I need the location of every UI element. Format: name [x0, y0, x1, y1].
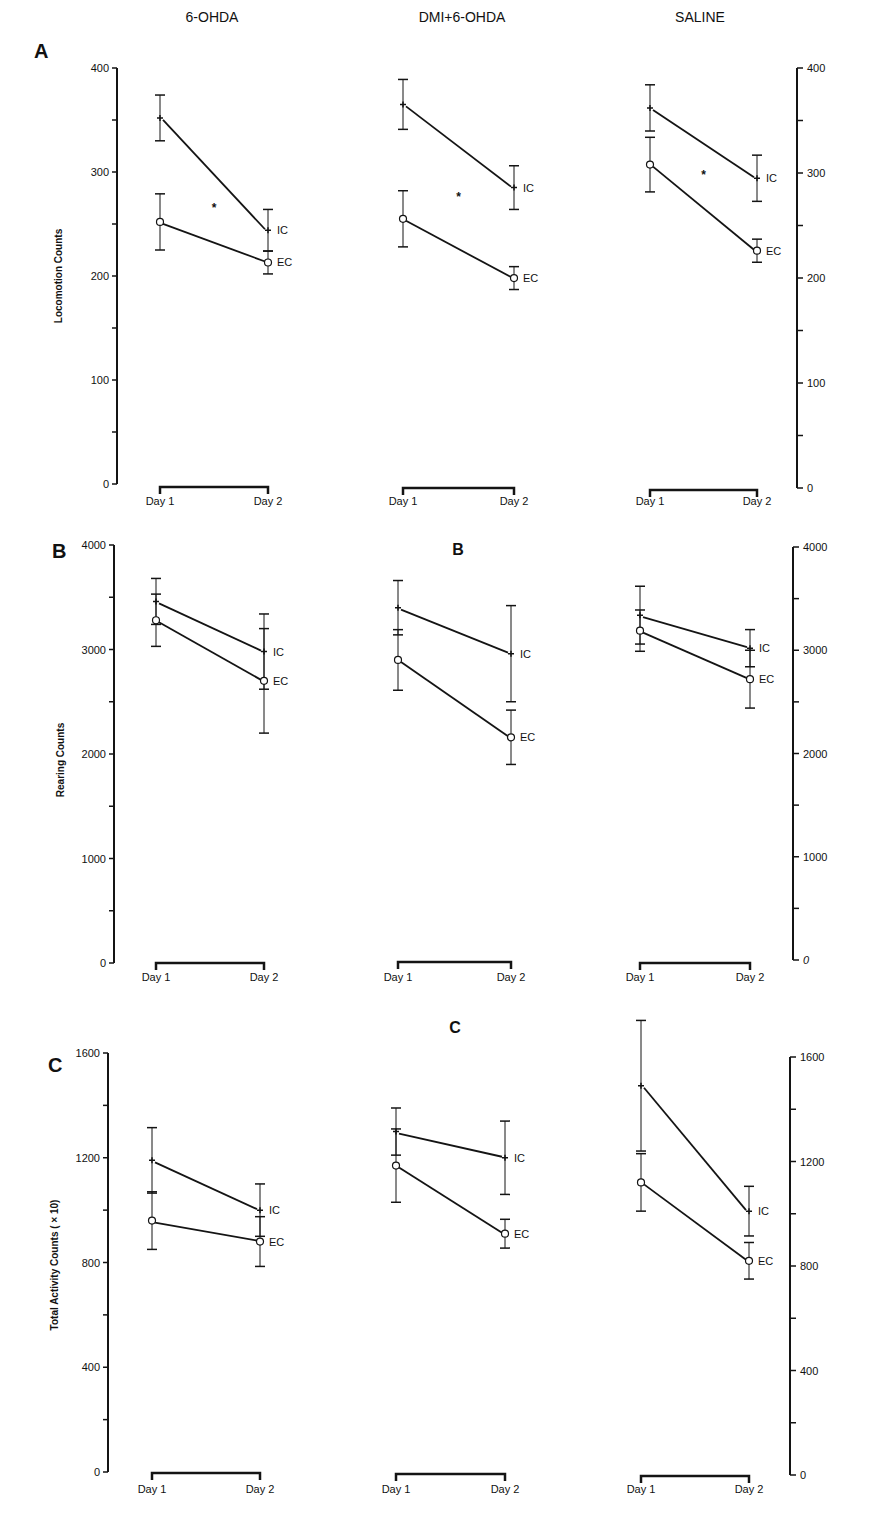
group-1: Day 1Day 2ICEC — [384, 581, 536, 983]
y-tick-label: 0 — [100, 957, 106, 969]
y-tick-label: 800 — [82, 1257, 100, 1269]
ec-marker — [747, 676, 754, 683]
ic-label: IC — [273, 646, 284, 658]
group-1: Day 1Day 2ICEC* — [389, 79, 539, 507]
ec-marker — [647, 161, 654, 168]
x-tick-label: Day 1 — [627, 1483, 656, 1495]
figure-canvas: 6-OHDADMI+6-OHDASALINEALocomotion Counts… — [0, 0, 871, 1523]
y-tick-label: 100 — [91, 374, 109, 386]
y-tick-label: 0 — [94, 1466, 100, 1478]
ec-label: EC — [758, 1255, 773, 1267]
panel-b: BBRearing Counts010002000300040000100020… — [52, 539, 827, 983]
y-axis-label: Locomotion Counts — [53, 228, 64, 323]
y-tick-label: 200 — [91, 270, 109, 282]
ec-line — [644, 1184, 746, 1259]
panel-letter: B — [52, 540, 66, 562]
ic-marker — [638, 1083, 644, 1089]
ec-marker — [502, 1230, 509, 1237]
panel-mid-letter: C — [449, 1019, 461, 1036]
ic-line — [653, 110, 754, 177]
x-tick-label: Day 1 — [382, 1483, 411, 1495]
ec-marker — [149, 1217, 156, 1224]
group-0: Day 1Day 2ICEC — [138, 1128, 285, 1495]
panel-mid-letter: B — [452, 541, 464, 558]
panel-a: ALocomotion Counts0100200300400010020030… — [34, 40, 825, 507]
ic-marker — [157, 115, 163, 121]
panel-letter: C — [48, 1054, 62, 1076]
y-tick-label-right: 100 — [807, 377, 825, 389]
ec-marker — [257, 1238, 264, 1245]
group-2: Day 1Day 2ICEC* — [636, 85, 782, 507]
column-title-0: 6-OHDA — [186, 9, 240, 25]
ec-line — [406, 221, 511, 277]
group-0: Day 1Day 2ICEC — [142, 578, 289, 983]
ec-line — [163, 224, 265, 262]
x-tick-label: Day 1 — [636, 495, 665, 507]
ic-marker — [647, 105, 653, 111]
y-tick-label-right: 1200 — [800, 1156, 824, 1168]
ec-line — [401, 662, 508, 736]
panel-c: CCTotal Activity Counts ( × 10)040080012… — [48, 1019, 824, 1495]
ic-label: IC — [514, 1152, 525, 1164]
y-axis-label: Rearing Counts — [55, 722, 66, 797]
y-tick-label: 4000 — [82, 539, 106, 551]
ic-line — [401, 610, 508, 653]
significance-star: * — [212, 201, 217, 215]
y-tick-label-right: 1000 — [803, 851, 827, 863]
ic-label: IC — [520, 648, 531, 660]
ec-marker — [754, 247, 761, 254]
y-tick-label: 3000 — [82, 644, 106, 656]
x-axis-bracket — [156, 963, 264, 970]
ic-label: IC — [759, 642, 770, 654]
ic-marker — [508, 651, 514, 657]
ec-marker — [265, 259, 272, 266]
y-tick-label: 1000 — [82, 853, 106, 865]
ic-line — [643, 617, 747, 647]
ic-line — [399, 1134, 502, 1157]
ec-line — [159, 622, 261, 680]
x-axis-bracket — [152, 1473, 260, 1480]
ic-marker — [395, 605, 401, 611]
x-tick-label: Day 1 — [138, 1483, 167, 1495]
significance-star: * — [701, 168, 706, 182]
ec-marker — [511, 275, 518, 282]
ec-marker — [638, 1179, 645, 1186]
ic-label: IC — [758, 1205, 769, 1217]
x-tick-label: Day 2 — [491, 1483, 520, 1495]
x-axis-bracket — [650, 490, 757, 497]
x-axis-bracket — [396, 1474, 505, 1481]
ec-label: EC — [514, 1228, 529, 1240]
ec-line — [643, 633, 747, 679]
y-tick-label-right: 0 — [800, 1469, 806, 1481]
ec-marker — [395, 656, 402, 663]
column-title-2: SALINE — [675, 9, 725, 25]
ec-line — [399, 1168, 502, 1233]
ec-label: EC — [277, 256, 292, 268]
ec-marker — [508, 734, 515, 741]
y-tick-label-right: 0 — [803, 954, 810, 966]
y-tick-label-right: 1600 — [800, 1051, 824, 1063]
column-title-1: DMI+6-OHDA — [419, 9, 506, 25]
ic-line — [155, 1162, 257, 1209]
ic-label: IC — [523, 182, 534, 194]
ic-marker — [746, 1208, 752, 1214]
x-tick-label: Day 2 — [743, 495, 772, 507]
y-tick-label-right: 400 — [800, 1365, 818, 1377]
y-tick-label-right: 200 — [807, 272, 825, 284]
y-tick-label: 2000 — [82, 748, 106, 760]
x-tick-label: Day 2 — [246, 1483, 275, 1495]
ec-label: EC — [520, 731, 535, 743]
ec-marker — [393, 1162, 400, 1169]
y-tick-label: 1200 — [76, 1152, 100, 1164]
x-tick-label: Day 1 — [146, 495, 175, 507]
ic-line — [159, 603, 261, 650]
x-axis-bracket — [398, 962, 511, 969]
y-tick-label: 400 — [82, 1361, 100, 1373]
x-tick-label: Day 2 — [500, 495, 529, 507]
ic-label: IC — [766, 172, 777, 184]
x-tick-label: Day 1 — [384, 971, 413, 983]
ec-line — [155, 1223, 257, 1241]
x-tick-label: Day 1 — [389, 495, 418, 507]
x-tick-label: Day 2 — [736, 971, 765, 983]
y-tick-label-right: 400 — [807, 62, 825, 74]
